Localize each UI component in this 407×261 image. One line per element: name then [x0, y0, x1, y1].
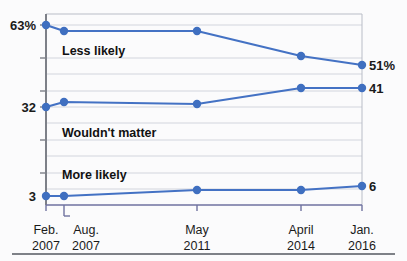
- chart-container: 63% 32 3: [0, 0, 407, 261]
- series-label-more-likely: More likely: [62, 168, 127, 182]
- x-label-3-bottom: 2014: [287, 239, 315, 253]
- x-label-3-top: April: [288, 223, 313, 237]
- end-value-less-likely: 51%: [369, 58, 395, 73]
- y-axis-label-0: 63%: [10, 18, 36, 33]
- data-point: [42, 192, 50, 200]
- y-axis-label-1: 32: [22, 100, 36, 115]
- x-label-0-top: Feb.: [33, 223, 58, 237]
- data-point: [60, 192, 68, 200]
- data-point: [193, 100, 201, 108]
- data-point: [42, 103, 50, 111]
- x-label-0-bottom: 2007: [32, 239, 60, 253]
- series-line-more-likely: [46, 186, 362, 196]
- series-more-likely: [42, 182, 366, 200]
- x-label-4-top: Jan.: [350, 223, 374, 237]
- x-label-1-bottom: 2007: [72, 239, 100, 253]
- series-label-less-likely: Less likely: [62, 44, 125, 58]
- data-point: [42, 21, 50, 29]
- data-point: [193, 186, 201, 194]
- end-value-wouldnt-matter: 41: [369, 81, 383, 96]
- x-label-4-bottom: 2016: [348, 239, 376, 253]
- data-point: [358, 84, 366, 92]
- data-point: [193, 27, 201, 35]
- y-axis-label-2: 3: [29, 189, 36, 204]
- data-point: [60, 98, 68, 106]
- series-label-wouldnt-matter: Wouldn't matter: [62, 126, 157, 140]
- x-axis-labels: Feb. 2007 Aug. 2007 May 2011 April 2014 …: [32, 223, 376, 253]
- data-point: [358, 182, 366, 190]
- line-chart: 63% 32 3: [0, 0, 407, 261]
- data-point: [60, 27, 68, 35]
- x-label-2-top: May: [185, 223, 209, 237]
- data-point: [358, 61, 366, 69]
- end-value-more-likely: 6: [369, 179, 376, 194]
- x-label-1-top: Aug.: [73, 223, 99, 237]
- data-point: [297, 186, 305, 194]
- data-point: [297, 84, 305, 92]
- x-label-2-bottom: 2011: [184, 239, 211, 253]
- data-point: [297, 52, 305, 60]
- x-axis-ticks: [46, 205, 362, 216]
